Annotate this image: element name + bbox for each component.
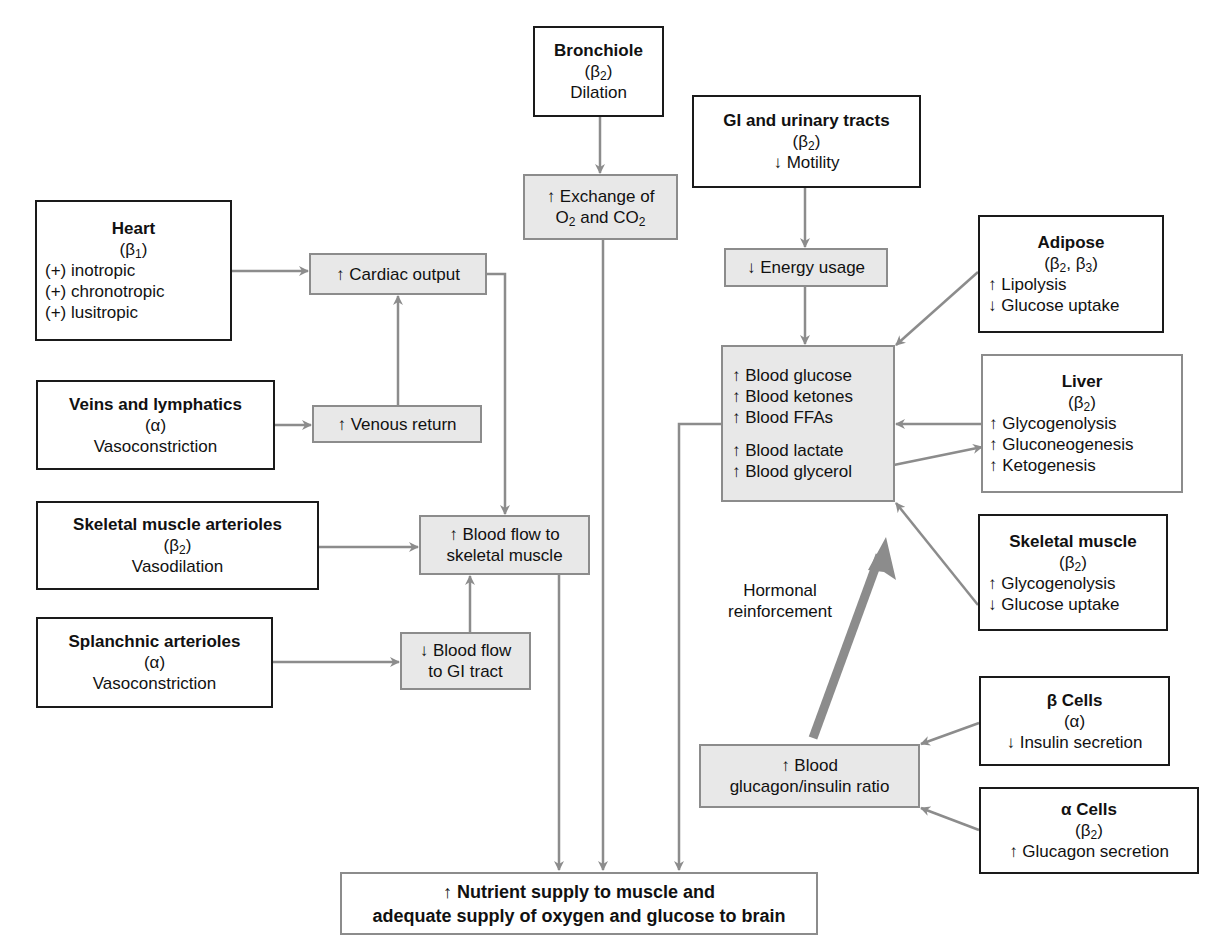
energy-usage-text: ↓ Energy usage: [726, 257, 886, 278]
alpha-cells-effect: ↑ Glucagon secretion: [981, 841, 1197, 862]
gi-urinary-effect: ↓ Motility: [694, 152, 919, 173]
arrow-cardiac-bloodflow: [487, 274, 505, 514]
skeletal-arterioles-receptor: (β2): [38, 535, 317, 556]
veins-effect: Vasoconstriction: [38, 436, 273, 457]
metabolite-glucose: ↑ Blood glucose: [732, 365, 893, 386]
cardiac-output-box: ↑ Cardiac output: [309, 253, 487, 295]
bronchiole-title: Bronchiole: [535, 40, 662, 61]
arrow-lactate-liver: [884, 447, 982, 467]
alpha-cells-receptor: (β2): [981, 820, 1197, 841]
venous-return-box: ↑ Venous return: [312, 405, 482, 443]
venous-return-text: ↑ Venous return: [314, 414, 480, 435]
cardiac-output-text: ↑ Cardiac output: [311, 264, 485, 285]
beta-cells-receptor: (α): [981, 711, 1168, 732]
glucagon-ratio-line1: ↑ Blood: [701, 755, 918, 776]
outcome-line2: adequate supply of oxygen and glucose to…: [342, 904, 816, 928]
alpha-cells-title: α Cells: [981, 799, 1197, 820]
adipose-box: Adipose (β2, β3) ↑ Lipolysis ↓ Glucose u…: [978, 215, 1164, 333]
glucagon-insulin-ratio-box: ↑ Blood glucagon/insulin ratio: [699, 744, 920, 808]
beta-cells-box: β Cells (α) ↓ Insulin secretion: [979, 676, 1170, 766]
energy-usage-box: ↓ Energy usage: [724, 248, 888, 287]
adipose-title: Adipose: [980, 232, 1162, 253]
exchange-box: ↑ Exchange of O2 and CO2: [523, 174, 678, 240]
skeletal-muscle-effect-glycogenolysis: ↑ Glycogenolysis: [980, 573, 1166, 594]
skeletal-muscle-title: Skeletal muscle: [980, 531, 1166, 552]
metabolite-ketones: ↑ Blood ketones: [732, 386, 893, 407]
blood-flow-gi-line2: to GI tract: [402, 661, 529, 682]
splanchnic-title: Splanchnic arterioles: [38, 631, 271, 652]
veins-lymphatics-box: Veins and lymphatics (α) Vasoconstrictio…: [36, 380, 275, 470]
skeletal-arterioles-effect: Vasodilation: [38, 556, 317, 577]
hormonal-reinforcement-label: Hormonal reinforcement: [700, 580, 860, 622]
arrow-alphacells-ratio: [921, 808, 979, 830]
heart-receptor: (β1): [37, 239, 230, 260]
blood-metabolites-box: ↑ Blood glucose ↑ Blood ketones ↑ Blood …: [721, 345, 895, 502]
skeletal-arterioles-box: Skeletal muscle arterioles (β2) Vasodila…: [36, 501, 319, 590]
heart-box: Heart (β1) (+) inotropic (+) chronotropi…: [35, 200, 232, 341]
liver-effect-glycogenolysis: ↑ Glycogenolysis: [983, 413, 1181, 434]
liver-effect-ketogenesis: ↑ Ketogenesis: [983, 455, 1181, 476]
bronchiole-box: Bronchiole (β2) Dilation: [533, 26, 664, 117]
adipose-effect-lipolysis: ↑ Lipolysis: [980, 274, 1162, 295]
bronchiole-effect: Dilation: [535, 82, 662, 103]
skeletal-muscle-box: Skeletal muscle (β2) ↑ Glycogenolysis ↓ …: [978, 514, 1168, 631]
metabolite-spacer: [732, 428, 893, 440]
blood-flow-gi-box: ↓ Blood flow to GI tract: [400, 632, 531, 690]
liver-box: Liver (β2) ↑ Glycogenolysis ↑ Gluconeoge…: [981, 354, 1183, 493]
metabolite-glycerol: ↑ Blood glycerol: [732, 461, 893, 482]
skeletal-muscle-receptor: (β2): [980, 552, 1166, 573]
blood-flow-skeletal-line2: skeletal muscle: [421, 545, 588, 566]
outcome-box: ↑ Nutrient supply to muscle and adequate…: [340, 872, 818, 935]
arrow-adipose-metabolites: [896, 272, 978, 345]
adipose-receptor: (β2, β3): [980, 253, 1162, 274]
exchange-line1: ↑ Exchange of: [525, 186, 676, 207]
blood-flow-skeletal-line1: ↑ Blood flow to: [421, 524, 588, 545]
gi-urinary-box: GI and urinary tracts (β2) ↓ Motility: [692, 95, 921, 188]
skeletal-arterioles-title: Skeletal muscle arterioles: [38, 514, 317, 535]
heart-title: Heart: [37, 218, 230, 239]
heart-effect-chronotropic: (+) chronotropic: [37, 281, 230, 302]
exchange-line2: O2 and CO2: [525, 207, 676, 228]
veins-receptor: (α): [38, 415, 273, 436]
arrow-muscle-metabolites: [896, 503, 978, 605]
liver-effect-gluconeogenesis: ↑ Gluconeogenesis: [983, 434, 1181, 455]
beta-cells-title: β Cells: [981, 690, 1168, 711]
heart-effect-inotropic: (+) inotropic: [37, 260, 230, 281]
liver-title: Liver: [983, 371, 1181, 392]
arrow-betacells-ratio: [921, 723, 979, 744]
glucagon-ratio-line2: glucagon/insulin ratio: [701, 776, 918, 797]
gi-urinary-title: GI and urinary tracts: [694, 110, 919, 131]
splanchnic-arterioles-box: Splanchnic arterioles (α) Vasoconstricti…: [36, 617, 273, 708]
outcome-line1: ↑ Nutrient supply to muscle and: [342, 880, 816, 904]
gi-urinary-receptor: (β2): [694, 131, 919, 152]
veins-title: Veins and lymphatics: [38, 394, 273, 415]
alpha-cells-box: α Cells (β2) ↑ Glucagon secretion: [979, 787, 1199, 874]
metabolite-ffas: ↑ Blood FFAs: [732, 407, 893, 428]
metabolite-lactate: ↑ Blood lactate: [732, 440, 893, 461]
skeletal-muscle-effect-glucose-uptake: ↓ Glucose uptake: [980, 594, 1166, 615]
bronchiole-receptor: (β2): [535, 61, 662, 82]
adipose-effect-glucose-uptake: ↓ Glucose uptake: [980, 295, 1162, 316]
splanchnic-receptor: (α): [38, 652, 271, 673]
heart-effect-lusitropic: (+) lusitropic: [37, 302, 230, 323]
beta-cells-effect: ↓ Insulin secretion: [981, 732, 1168, 753]
blood-flow-skeletal-box: ↑ Blood flow to skeletal muscle: [419, 515, 590, 575]
blood-flow-gi-line1: ↓ Blood flow: [402, 640, 529, 661]
splanchnic-effect: Vasoconstriction: [38, 673, 271, 694]
liver-receptor: (β2): [983, 392, 1181, 413]
